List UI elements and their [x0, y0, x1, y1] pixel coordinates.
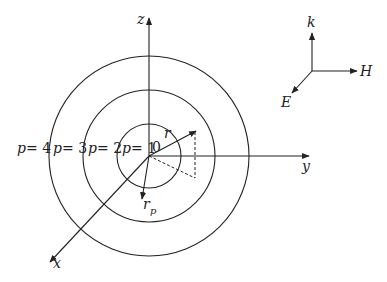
x-axis	[50, 156, 149, 262]
ring-label-p1-var: p	[122, 140, 131, 156]
z-axis-label: z	[136, 11, 145, 27]
ring-label-p3-var: p	[53, 140, 62, 156]
E-arrow	[292, 71, 312, 93]
diagram-canvas: z y x 0 r r p p = 1 p = 2 p = 3 p = 4 k …	[0, 0, 387, 282]
projection-diagonal	[149, 156, 195, 178]
k-label: k	[307, 14, 315, 30]
ring-label-p3-eq: = 3	[62, 140, 87, 156]
E-label: E	[280, 94, 291, 110]
ring-label-p4-eq: = 4	[26, 140, 51, 156]
ring-label-p1-eq: = 1	[131, 140, 156, 156]
ring-label-p4-var: p	[17, 140, 26, 156]
ring-label-p2-eq: = 2	[97, 140, 122, 156]
ring-label-p2-var: p	[88, 140, 97, 156]
rp-vector-subscript: p	[150, 205, 157, 216]
y-axis-label: y	[301, 158, 311, 174]
H-label: H	[359, 63, 373, 79]
x-axis-label: x	[53, 255, 61, 271]
